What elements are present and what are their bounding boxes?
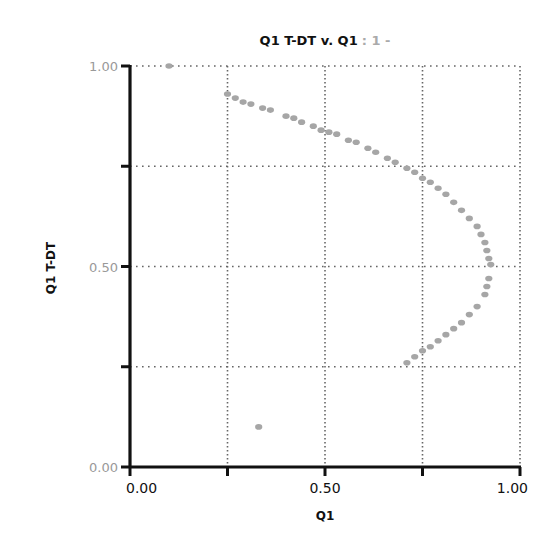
data-point [450,200,457,206]
data-point [466,312,473,318]
data-point [485,276,492,282]
data-point [384,155,391,161]
x-tick-label: 1.00 [497,480,528,496]
data-point [419,348,426,354]
data-point [487,262,494,268]
data-point [435,186,442,192]
chart-title: Q1 T-DT v. Q1: 1 - [260,33,391,48]
data-point [477,232,484,238]
data-point [485,256,492,262]
data-point [255,424,262,430]
scatter-chart: Q1 T-DT v. Q1: 1 - 0.000.501.000.000.501… [0,0,553,549]
data-point [474,304,481,310]
data-point [458,320,465,326]
y-tick-label: 0.50 [89,260,118,275]
data-point [483,284,490,290]
data-point [364,145,371,151]
data-point [325,129,332,135]
x-tick-label: 0.00 [126,480,157,496]
data-point [392,159,399,165]
data-point [427,179,434,185]
data-point [411,169,418,175]
data-point [165,63,172,69]
svg-text:Q1 T-DT v. Q1: 1 -: Q1 T-DT v. Q1: 1 - [260,33,391,48]
data-point [481,240,488,246]
data-point [403,165,410,171]
data-point [310,123,317,129]
data-point [290,115,297,121]
data-point [333,131,340,137]
data-point [353,139,360,145]
data-point [259,105,266,111]
data-point [450,326,457,332]
x-axis-label: Q1 [316,509,335,523]
data-point [483,248,490,254]
data-point [474,224,481,230]
data-point [481,292,488,298]
y-tick-label: 1.00 [89,59,118,74]
data-point [247,101,254,107]
data-point [466,216,473,222]
y-axis-label: Q1 T-DT [44,241,58,294]
data-point [442,192,449,198]
data-point [427,344,434,350]
tick-labels: 0.000.501.000.000.501.00 [89,59,528,496]
data-point [442,332,449,338]
data-point [411,354,418,360]
grid-lines [130,66,520,467]
data-points [165,63,494,430]
data-point [232,95,239,101]
data-point [403,360,410,366]
data-point [345,137,352,143]
data-point [298,119,305,125]
data-point [419,175,426,181]
data-point [318,127,325,133]
x-tick-label: 0.50 [309,480,340,496]
data-point [240,99,247,105]
chart-title-suffix: : 1 - [362,33,391,48]
data-point [458,208,465,214]
chart-title-main: Q1 T-DT v. Q1 [260,33,358,48]
data-point [267,107,274,113]
y-tick-label: 0.00 [89,460,118,475]
data-point [282,113,289,119]
data-point [372,149,379,155]
data-point [224,91,231,97]
axes [121,65,521,476]
data-point [435,338,442,344]
